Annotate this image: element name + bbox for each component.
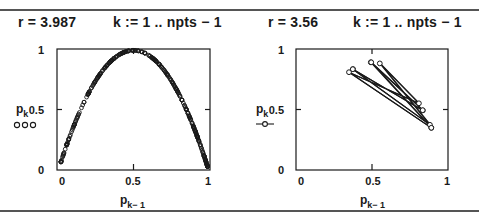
- data-lines: [349, 62, 433, 128]
- x-axis-label: pk− 1: [120, 193, 145, 210]
- x-tick-labels: 0 0.5 1: [59, 175, 211, 187]
- data-points: [347, 60, 434, 130]
- svg-text:pk: pk: [256, 102, 269, 119]
- x-tick-0: 0: [59, 175, 65, 187]
- y-tick-1: 1: [278, 44, 284, 56]
- svg-text:pk: pk: [16, 102, 29, 119]
- x-tick-0.5: 0.5: [125, 175, 140, 187]
- y-axis-label: pk: [16, 102, 29, 119]
- legend-line-circle-marker: [256, 122, 274, 127]
- svg-text:pk− 1: pk− 1: [360, 193, 385, 210]
- svg-text:pk− 1: pk− 1: [120, 193, 145, 210]
- y-tick-1: 1: [38, 44, 44, 56]
- legend-circles-marker: [14, 122, 35, 127]
- y-axis-label: pk: [256, 102, 269, 119]
- y-tick-labels: 1 0.5 0: [29, 44, 44, 176]
- y-tick-0: 0: [38, 164, 44, 176]
- x-tick-0.5: 0.5: [365, 175, 380, 187]
- y-tick-labels: 1 0.5 0: [269, 44, 284, 176]
- x-tick-1: 1: [444, 175, 450, 187]
- logistic-line-plot-right: 1 0.5 0 0 0.5 1 pk pk− 1: [240, 0, 479, 213]
- x-axis-label: pk− 1: [360, 193, 385, 210]
- logistic-scatter-plot-left: 1 0.5 0 0 0.5 1 pk pk− 1: [0, 0, 240, 213]
- x-tick-0: 0: [298, 175, 304, 187]
- y-tick-0: 0: [278, 164, 284, 176]
- y-tick-0.5: 0.5: [269, 104, 284, 116]
- data-points: [59, 49, 209, 169]
- y-tick-0.5: 0.5: [29, 104, 44, 116]
- x-tick-labels: 0 0.5 1: [298, 175, 450, 187]
- x-tick-1: 1: [205, 175, 211, 187]
